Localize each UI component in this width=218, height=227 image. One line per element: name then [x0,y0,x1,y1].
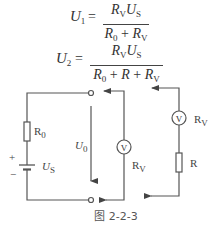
terminal-top-icon [89,91,94,96]
circuit-diagram: V V [0,0,218,227]
label-rv-branch2: RV [194,113,208,128]
label-r0: R0 [34,125,46,140]
label-us: US [42,160,55,175]
voltmeter-2-symbol: V [176,114,183,124]
terminal-bottom-icon [89,198,94,203]
label-r: R [190,157,197,169]
voltmeter-1-symbol: V [121,143,128,153]
source-bottom-wire [27,170,88,200]
meter2-top-wire [152,88,179,111]
label-minus: − [10,168,16,180]
meter1-bottom-wire [106,154,124,200]
source-top-wire [27,93,88,122]
meter1-top-wire [104,91,124,140]
resistor-r-icon [176,153,182,172]
meter2-bottom-wire [151,172,179,196]
resistor-r0-icon [24,122,30,141]
label-plus: + [9,151,15,163]
figure-caption: 图 2-2-3 [0,207,218,223]
label-u0: U0 [75,139,87,154]
label-rv-branch1: RV [132,159,146,174]
